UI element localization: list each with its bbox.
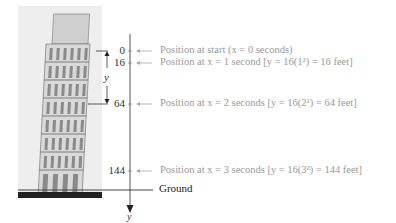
note-start: Position at start (x = 0 seconds) bbox=[160, 44, 293, 55]
note-1-second: Position at x = 1 second [y = 16(1²) = 1… bbox=[160, 56, 353, 67]
tick-label-16: 16 bbox=[95, 56, 125, 68]
tick-label-144: 144 bbox=[95, 164, 125, 176]
note-3-seconds: Position at x = 3 seconds [y = 16(3²) = … bbox=[160, 164, 362, 175]
ground-label: Ground bbox=[159, 182, 193, 194]
tick-label-64: 64 bbox=[95, 97, 125, 109]
axis-diagram bbox=[0, 0, 396, 223]
tick-label-0: 0 bbox=[95, 44, 125, 56]
bracket-y-label: y bbox=[104, 71, 109, 83]
note-2-seconds: Position at x = 2 seconds [y = 16(2²) = … bbox=[160, 97, 357, 108]
axis-y-label: y bbox=[127, 211, 131, 222]
